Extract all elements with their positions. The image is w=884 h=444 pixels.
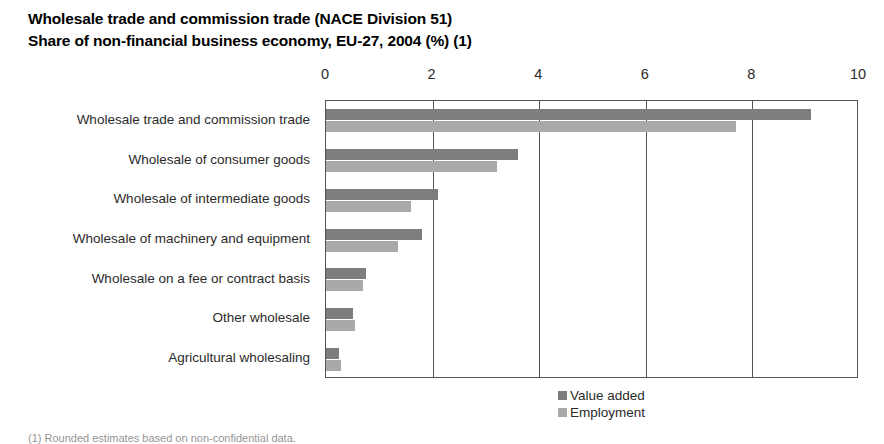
x-tick-label-4: 4 <box>518 66 558 82</box>
bar-employment-0 <box>326 121 736 132</box>
bar-group-6 <box>326 348 859 371</box>
legend-swatch-value-added-icon <box>558 391 567 400</box>
x-tick-label-0: 0 <box>305 66 345 82</box>
bar-employment-2 <box>326 201 411 212</box>
y-category-label-4: Wholesale on a fee or contract basis <box>0 272 318 286</box>
bar-value-added-4 <box>326 268 366 279</box>
bar-chart: 0246810 Wholesale trade and commission t… <box>0 0 884 444</box>
bar-value-added-2 <box>326 189 438 200</box>
legend-item-value-added: Value added <box>558 387 758 404</box>
bar-value-added-6 <box>326 348 339 359</box>
x-tick-label-2: 2 <box>412 66 452 82</box>
bar-employment-3 <box>326 241 398 252</box>
footnote: (1) Rounded estimates based on non-confi… <box>28 432 296 444</box>
y-category-label-2: Wholesale of intermediate goods <box>0 192 318 206</box>
bar-group-4 <box>326 268 859 291</box>
bar-group-5 <box>326 308 859 331</box>
x-tick-label-10: 10 <box>838 66 878 82</box>
x-tick-label-6: 6 <box>625 66 665 82</box>
y-category-label-5: Other wholesale <box>0 311 318 325</box>
legend-label-value-added: Value added <box>570 388 645 403</box>
legend-label-employment: Employment <box>570 405 645 420</box>
bar-employment-1 <box>326 161 497 172</box>
y-category-label-3: Wholesale of machinery and equipment <box>0 232 318 246</box>
y-category-label-0: Wholesale trade and commission trade <box>0 113 318 127</box>
plot-area <box>325 100 858 378</box>
y-axis-category-labels: Wholesale trade and commission tradeWhol… <box>0 100 318 378</box>
chart-legend: Value added Employment <box>558 387 758 421</box>
bar-group-1 <box>326 149 859 172</box>
x-tick-label-8: 8 <box>731 66 771 82</box>
legend-swatch-employment-icon <box>558 408 567 417</box>
bar-value-added-3 <box>326 229 422 240</box>
x-axis-tick-labels: 0246810 <box>0 66 884 90</box>
bar-value-added-0 <box>326 109 811 120</box>
legend-item-employment: Employment <box>558 404 758 421</box>
bar-employment-4 <box>326 280 363 291</box>
bar-group-3 <box>326 229 859 252</box>
y-category-label-6: Agricultural wholesaling <box>0 351 318 365</box>
bar-group-2 <box>326 189 859 212</box>
bar-employment-5 <box>326 320 355 331</box>
bar-group-0 <box>326 109 859 132</box>
bar-value-added-1 <box>326 149 518 160</box>
bar-value-added-5 <box>326 308 353 319</box>
y-category-label-1: Wholesale of consumer goods <box>0 153 318 167</box>
bar-employment-6 <box>326 360 341 371</box>
